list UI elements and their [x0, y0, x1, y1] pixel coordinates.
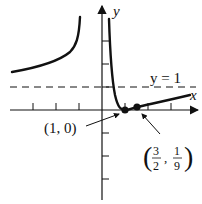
point-3-2-1-9 [133, 103, 140, 110]
svg-text:2: 2 [153, 159, 159, 173]
svg-text:9: 9 [174, 159, 180, 173]
asymptote-label: y = 1 [150, 70, 181, 86]
svg-text:1: 1 [174, 144, 180, 158]
point2-arrow [142, 114, 160, 134]
point-1-0 [121, 106, 128, 113]
point1-label: (1, 0) [44, 120, 77, 137]
right-branch-curve [109, 19, 190, 110]
y-axis-label: y [111, 3, 120, 19]
x-axis-label: x [189, 87, 197, 103]
svg-text:(: ( [143, 141, 152, 172]
svg-text:3: 3 [153, 144, 159, 158]
svg-text:,: , [164, 150, 167, 165]
point2-label: ( 3 2 , 1 9 ) [143, 141, 193, 173]
svg-text:): ) [184, 141, 193, 172]
function-graph: y x y = 1 (1, 0) ( 3 2 , 1 9 ) [0, 0, 202, 204]
left-branch-curve [12, 17, 80, 72]
